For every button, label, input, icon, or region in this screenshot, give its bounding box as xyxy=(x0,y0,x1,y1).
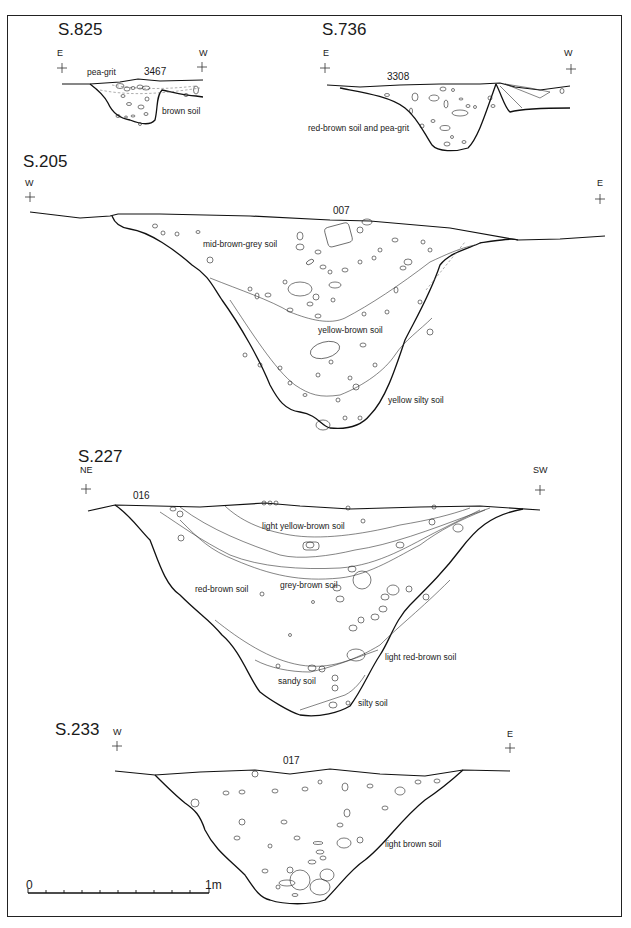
section-s205: S.205 W E 007 mid-brown-grey soil yellow… xyxy=(23,152,605,430)
datum-cross-icon xyxy=(81,484,91,494)
datum-cross-icon xyxy=(197,62,207,72)
fill-label: light yellow-brown soil xyxy=(262,521,345,531)
fill-label: mid-brown-grey soil xyxy=(203,239,277,249)
orientation-right: E xyxy=(507,729,513,739)
context-number: 007 xyxy=(333,205,350,216)
fill-label: red-brown soil xyxy=(195,584,248,594)
fill-label: yellow-brown soil xyxy=(318,325,383,335)
stone-inclusions xyxy=(170,501,463,708)
fill-label: silty soil xyxy=(358,698,388,708)
orientation-right: W xyxy=(199,48,208,58)
scale-start-label: 0 xyxy=(26,878,33,892)
datum-cross-icon xyxy=(566,64,576,74)
section-title: S.205 xyxy=(23,152,67,171)
datum-cross-icon xyxy=(57,63,67,73)
section-s227: S.227 NE SW 016 light yellow-brown soil … xyxy=(78,447,548,716)
section-title: S.233 xyxy=(55,720,99,739)
stone-inclusions xyxy=(191,771,440,897)
context-number: 017 xyxy=(283,755,300,766)
section-s233: S.233 W E 017 light brown soil xyxy=(55,720,515,904)
fill-label: red-brown soil and pea-grit xyxy=(308,123,410,133)
orientation-left: E xyxy=(57,48,63,58)
context-number: 3308 xyxy=(387,71,410,82)
orientation-right: W xyxy=(564,48,573,58)
fill-label: yellow silty soil xyxy=(388,395,444,405)
section-title: S.736 xyxy=(322,20,366,39)
orientation-right: E xyxy=(597,178,603,188)
fill-label: light brown soil xyxy=(385,839,441,849)
orientation-left: W xyxy=(113,727,122,737)
section-drawings: S.825 E W pea-grit 3467 brown soil S.736… xyxy=(0,0,631,928)
fill-label: sandy soil xyxy=(278,676,316,686)
scale-end-label: 1m xyxy=(205,878,222,892)
fill-label: pea-grit xyxy=(87,67,116,77)
orientation-left: W xyxy=(25,178,34,188)
fill-label: light red-brown soil xyxy=(385,652,456,662)
section-title: S.227 xyxy=(78,447,122,466)
context-number: 3467 xyxy=(144,66,167,77)
fill-label: brown soil xyxy=(162,106,200,116)
datum-cross-icon xyxy=(25,192,35,202)
orientation-left: E xyxy=(323,48,329,58)
section-title: S.825 xyxy=(58,20,102,39)
datum-cross-icon xyxy=(595,194,605,204)
datum-cross-icon xyxy=(535,485,545,495)
datum-cross-icon xyxy=(320,63,330,73)
section-s825: S.825 E W pea-grit 3467 brown soil xyxy=(57,20,208,126)
orientation-right: SW xyxy=(533,465,548,475)
fill-label: grey-brown soil xyxy=(280,580,338,590)
scale-bar: 0 1m xyxy=(26,878,222,893)
datum-cross-icon xyxy=(505,743,515,753)
context-number: 016 xyxy=(133,490,150,501)
section-s736: S.736 E W 3308 red-brown soil and pea-gr… xyxy=(308,20,576,151)
orientation-left: NE xyxy=(80,465,93,475)
datum-cross-icon xyxy=(112,741,122,751)
